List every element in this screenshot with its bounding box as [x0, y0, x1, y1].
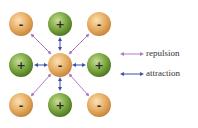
ion-positive-right: + [87, 53, 111, 77]
svg-text:+: + [55, 18, 64, 31]
ion-positive-top: + [48, 12, 72, 36]
svg-text:-: - [97, 99, 102, 112]
ion-negative-top-right: - [87, 12, 111, 36]
svg-text:-: - [97, 18, 102, 31]
ion-negative-bottom-left: - [9, 93, 33, 117]
ion-negative-center: - [48, 53, 72, 77]
ion-positive-bottom: + [48, 93, 72, 117]
ion-diagram: - + - + - + - + - [0, 0, 198, 128]
ion-negative-top-left: - [9, 12, 33, 36]
legend-repulsion-label: repulsion [146, 48, 180, 58]
svg-text:+: + [55, 99, 64, 112]
svg-text:+: + [16, 59, 25, 72]
svg-text:-: - [19, 18, 24, 31]
ion-positive-left: + [9, 53, 33, 77]
legend-attraction-label: attraction [146, 68, 180, 78]
svg-text:+: + [94, 59, 103, 72]
svg-text:-: - [19, 99, 24, 112]
ion-negative-bottom-right: - [87, 93, 111, 117]
svg-text:-: - [58, 59, 63, 72]
